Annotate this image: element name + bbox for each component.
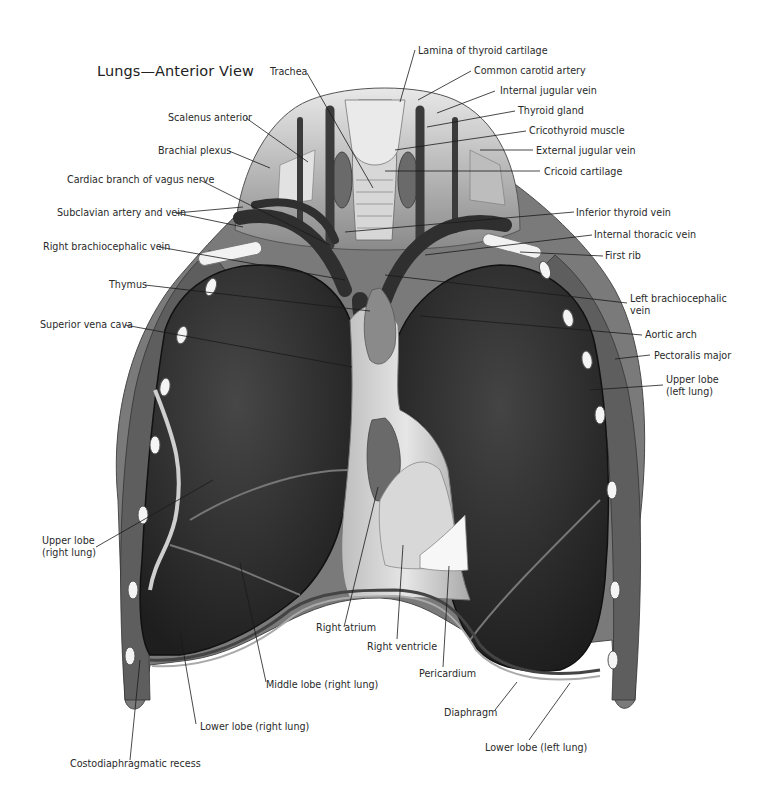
label-lamina-thyroid-cartilage: Lamina of thyroid cartilage	[418, 45, 548, 57]
label-right-brachiocephalic-vein: Right brachiocephalic vein	[43, 241, 170, 253]
label-upper-lobe-left-line2: (left lung)	[666, 386, 719, 398]
label-right-ventricle: Right ventricle	[367, 641, 437, 653]
label-internal-jugular-vein: Internal jugular vein	[500, 85, 597, 97]
lungs-illustration	[0, 0, 763, 806]
label-upper-lobe-right-line1: Upper lobe	[42, 535, 94, 547]
label-internal-thoracic-vein: Internal thoracic vein	[594, 229, 696, 241]
label-pectoralis-major: Pectoralis major	[654, 350, 731, 362]
figure-title: Lungs—Anterior View	[97, 63, 254, 79]
label-subclavian: Subclavian artery and vein	[57, 207, 186, 219]
label-upper-lobe-right: Upper lobe (right lung)	[42, 535, 94, 559]
label-first-rib: First rib	[605, 250, 641, 262]
label-left-brachiocephalic-line2: vein	[630, 305, 727, 317]
label-trachea: Trachea	[270, 66, 307, 78]
label-right-atrium: Right atrium	[316, 622, 376, 634]
label-left-brachiocephalic-line1: Left brachiocephalic	[630, 293, 727, 305]
label-middle-lobe-right: Middle lobe (right lung)	[266, 679, 378, 691]
label-external-jugular-vein: External jugular vein	[536, 145, 636, 157]
label-aortic-arch: Aortic arch	[645, 329, 697, 341]
label-upper-lobe-left-line1: Upper lobe	[666, 374, 719, 386]
label-lower-lobe-right: Lower lobe (right lung)	[200, 721, 309, 733]
label-pericardium: Pericardium	[419, 668, 476, 680]
label-left-brachiocephalic-vein: Left brachiocephalic vein	[630, 293, 727, 317]
label-brachial-plexus: Brachial plexus	[158, 145, 231, 157]
label-common-carotid-artery: Common carotid artery	[474, 65, 586, 77]
label-upper-lobe-right-line2: (right lung)	[42, 547, 94, 559]
label-inferior-thyroid-vein: Inferior thyroid vein	[576, 207, 671, 219]
label-thyroid-gland: Thyroid gland	[518, 105, 584, 117]
label-cardiac-branch-vagus: Cardiac branch of vagus nerve	[67, 174, 214, 186]
label-thymus: Thymus	[109, 279, 147, 291]
label-diaphragm: Diaphragm	[444, 707, 497, 719]
label-costodiaphragmatic-recess: Costodiaphragmatic recess	[70, 758, 201, 770]
label-upper-lobe-left: Upper lobe (left lung)	[666, 374, 719, 398]
anatomy-figure: Lungs—Anterior View Trachea Scalenus ant…	[0, 0, 763, 806]
label-scalenus-anterior: Scalenus anterior	[168, 112, 252, 124]
thyroid-lobe-right	[332, 152, 352, 208]
label-superior-vena-cava: Superior vena cava	[40, 319, 133, 331]
thyroid-lobe-left	[398, 152, 418, 208]
label-lower-lobe-left: Lower lobe (left lung)	[485, 742, 587, 754]
label-cricothyroid-muscle: Cricothyroid muscle	[529, 125, 625, 137]
label-cricoid-cartilage: Cricoid cartilage	[544, 166, 622, 178]
